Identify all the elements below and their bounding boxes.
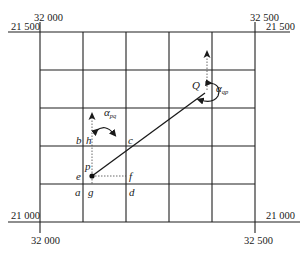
label-top-right-northing: 21 500 bbox=[266, 21, 295, 32]
grid-axes bbox=[8, 22, 300, 233]
label-point-a: a bbox=[75, 186, 81, 198]
label-point-d: d bbox=[129, 186, 135, 198]
label-bottom-right-easting: 32 500 bbox=[244, 235, 273, 246]
angle-label-qp: αqp bbox=[216, 82, 229, 95]
north-arrow-q-icon bbox=[204, 50, 211, 58]
grid-lines bbox=[40, 32, 255, 222]
coordinate-grid-diagram: 32 000 21 500 32 500 21 500 21 000 32 00… bbox=[0, 0, 306, 255]
label-bottom-left-northing: 21 000 bbox=[11, 210, 40, 221]
label-point-f: f bbox=[129, 170, 134, 182]
label-point-e: e bbox=[76, 170, 81, 182]
angle-arc-pq bbox=[96, 128, 114, 134]
label-point-p: p bbox=[84, 160, 91, 172]
label-point-b: b bbox=[76, 134, 82, 146]
construction-lines bbox=[92, 58, 207, 184]
label-point-g: g bbox=[88, 186, 94, 198]
label-point-h: h bbox=[86, 134, 92, 146]
point-p-marker bbox=[89, 173, 94, 178]
label-bottom-left-easting: 32 000 bbox=[31, 235, 60, 246]
label-point-c: c bbox=[128, 134, 133, 146]
label-top-left-northing: 21 500 bbox=[11, 21, 40, 32]
label-point-q: Q bbox=[192, 79, 200, 91]
label-bottom-right-northing: 21 000 bbox=[266, 210, 295, 221]
